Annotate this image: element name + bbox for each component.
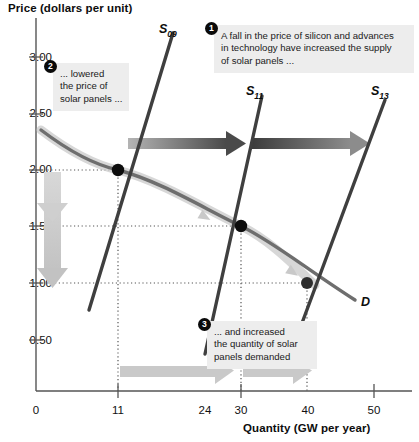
- callout-1-line-3: of solar panels ...: [221, 55, 407, 67]
- equilibrium-point-3: [301, 277, 313, 289]
- callout-1-line-2: in technology have increased the supply: [221, 42, 407, 54]
- supply-curve-label-s13: S13: [371, 84, 389, 101]
- s09-subscript: 09: [167, 29, 176, 39]
- callout-2-line-3: solar panels ...: [60, 93, 122, 105]
- callout-2-line-1: ... lowered: [60, 68, 122, 80]
- equilibrium-point-2: [235, 220, 247, 232]
- callout-badge-3: 3: [198, 318, 211, 331]
- callout-1-line-1: A fall in the price of silicon and advan…: [221, 30, 407, 42]
- supply-shift-arrow-2: [252, 131, 370, 156]
- callout-box-2: ... lowered the price of solar panels ..…: [53, 63, 129, 111]
- demand-curve-highlight: [41, 130, 315, 285]
- callout-2-line-2: the price of: [60, 80, 122, 92]
- supply-curve-label-s11: S11: [246, 84, 263, 101]
- callout-3-line-1: ... and increased: [214, 326, 310, 338]
- callout-3-line-3: panels demanded: [214, 351, 310, 363]
- supply-curve-s11: [205, 96, 262, 354]
- s13-subscript: 13: [379, 91, 388, 101]
- callout-3-line-2: the quantity of solar: [214, 338, 310, 350]
- price-drop-arrow: [37, 172, 68, 288]
- callout-badge-2: 2: [44, 60, 57, 73]
- callout-badge-1: 1: [205, 22, 218, 35]
- callout-box-1: A fall in the price of silicon and advan…: [214, 25, 414, 73]
- supply-curve-label-s09: S09: [159, 22, 177, 39]
- supply-demand-chart: Price (dollars per unit) Quantity (GW pe…: [0, 0, 419, 442]
- equilibrium-point-1: [112, 164, 124, 176]
- callout-box-3: ... and increased the quantity of solar …: [207, 321, 317, 369]
- s11-subscript: 11: [254, 91, 263, 101]
- demand-curve-label-d: D: [361, 295, 370, 309]
- supply-shift-arrow-1: [128, 131, 246, 156]
